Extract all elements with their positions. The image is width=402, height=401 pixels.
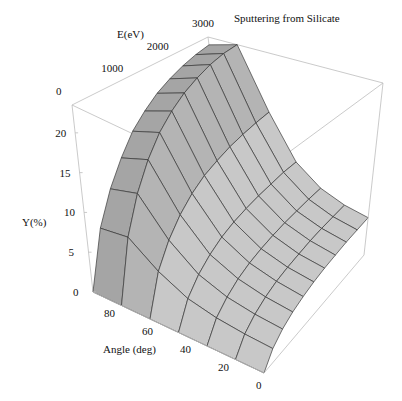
box-edge: [364, 83, 383, 255]
surface-plot: 010002000300080604020005101520 Sputterin…: [0, 0, 402, 401]
y-tick-label: 40: [180, 343, 192, 355]
y-tick-label: 0: [256, 379, 262, 391]
chart-title: Sputtering from Silicate: [234, 12, 340, 24]
surface: [93, 45, 368, 373]
x-tick-label: 0: [56, 85, 62, 97]
z-tick-label: 10: [64, 206, 76, 218]
x-tick-label: 1000: [101, 62, 124, 74]
y-axis-label: Angle (deg): [103, 343, 156, 356]
x-axis-label: E(eV): [117, 28, 144, 41]
y-tick-label: 20: [218, 361, 230, 373]
z-tick-label: 20: [55, 127, 66, 139]
z-tick-label: 5: [69, 246, 75, 258]
y-tick-label: 60: [142, 325, 154, 337]
x-tick-label: 3000: [192, 17, 215, 29]
z-tick-label: 0: [73, 286, 79, 298]
z-axis-label: Y(%): [22, 216, 47, 229]
x-tick-label: 2000: [147, 40, 170, 52]
z-tick-label: 15: [60, 167, 72, 179]
y-tick-label: 80: [104, 307, 116, 319]
